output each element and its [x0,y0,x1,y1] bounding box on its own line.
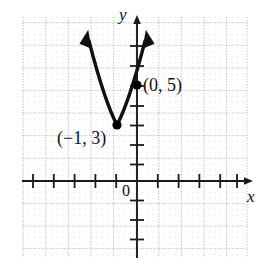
grid-minor [22,17,248,258]
vertex-point-marker [112,120,121,129]
coordinate-plane-svg [0,0,270,268]
y-intercept-point-marker [132,80,141,89]
vertex-point-label: (−1, 3) [57,129,106,147]
graph-figure: x y 0 (0, 5) (−1, 3) [0,0,270,268]
x-axis-label: x [247,188,255,205]
y-axis-label: y [119,6,127,23]
y-intercept-point-label: (0, 5) [143,76,182,94]
origin-label: 0 [122,183,130,199]
